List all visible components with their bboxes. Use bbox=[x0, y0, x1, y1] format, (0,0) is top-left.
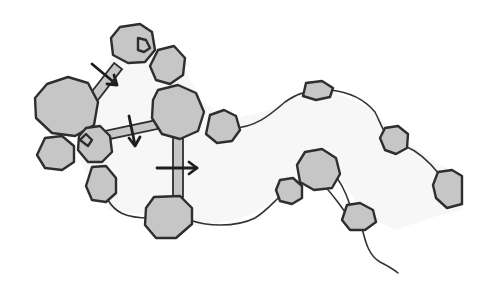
node bbox=[78, 126, 112, 162]
node bbox=[37, 136, 74, 170]
bridge-3 bbox=[173, 135, 183, 197]
node bbox=[297, 149, 340, 190]
diagram-canvas bbox=[0, 0, 485, 294]
node bbox=[152, 85, 204, 139]
node bbox=[145, 196, 192, 238]
node bbox=[380, 126, 408, 154]
node bbox=[86, 166, 116, 202]
node bbox=[276, 178, 302, 204]
node bbox=[303, 81, 333, 100]
node bbox=[206, 110, 240, 143]
